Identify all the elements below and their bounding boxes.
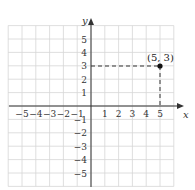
axes (9, 18, 184, 187)
y-tick-label: −4 (74, 155, 88, 165)
x-tick-label: 4 (143, 109, 149, 119)
point-label: (5, 3) (147, 52, 174, 63)
y-tick-label: 2 (81, 75, 87, 85)
y-tick-label: −3 (74, 142, 88, 152)
x-tick-label: 3 (130, 109, 136, 119)
y-tick-label: 1 (81, 88, 87, 98)
y-tick-label: 4 (81, 48, 87, 58)
x-axis-label: x (183, 109, 189, 120)
data-point (157, 63, 162, 68)
x-tick-label: 1 (102, 109, 108, 119)
x-tick-label: 2 (116, 109, 122, 119)
x-tick-label: −5 (15, 109, 29, 119)
projection-dashes (91, 66, 160, 106)
x-tick-label: −4 (29, 109, 43, 119)
x-tick-label: −2 (57, 109, 70, 119)
y-tick-label: −2 (74, 128, 87, 138)
x-tick-labels: −5−4−3−2−112345 (15, 109, 163, 119)
y-tick-label: −1 (74, 115, 87, 125)
y-tick-label: −5 (74, 169, 88, 179)
y-tick-label: 5 (81, 35, 87, 45)
y-tick-label: 3 (81, 61, 87, 71)
y-axis-label: y (81, 15, 88, 26)
x-tick-label: −3 (43, 109, 57, 119)
coordinate-plane: x y −5−4−3−2−112345 54321−1−2−3−4−5 (5, … (0, 0, 195, 190)
y-axis-arrow-icon (88, 18, 94, 25)
x-tick-label: 5 (157, 109, 163, 119)
